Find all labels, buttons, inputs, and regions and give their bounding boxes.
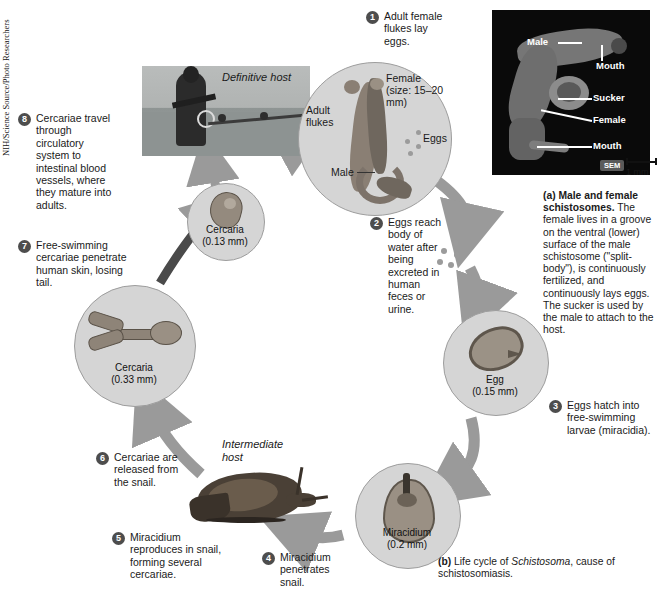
inset-label-mouth-bottom: Mouth: [593, 140, 622, 151]
caption-b-text1: Life cycle of: [454, 556, 508, 567]
step-6: 6 Cercariae are released from the snail.: [96, 451, 188, 488]
inset-label-sucker: Sucker: [593, 92, 625, 103]
intermediate-host-label: Intermediate host: [222, 438, 302, 463]
eggs-cluster-inside-circle: [404, 130, 426, 158]
step-4-text: Miracidium penetrates snail.: [280, 551, 354, 588]
miracidium-size: (0.2 mm): [387, 539, 427, 550]
inset-label-female: Female: [593, 114, 626, 125]
step-5: 5 Miracidium reproduces in snail, formin…: [112, 531, 236, 581]
step-6-number: 6: [96, 452, 109, 465]
cercaria-large-illustration: [88, 315, 184, 357]
snail-photo: [190, 465, 320, 531]
caption-b-species: Schistosoma: [511, 556, 570, 567]
cercaria-small-label: Cercaria (0.13 mm): [187, 224, 263, 247]
photo-credit: NIH/Science Source/Photo Researchers: [1, 4, 15, 172]
scale-bar-right-tick: [655, 158, 657, 165]
step-7-number: 7: [18, 240, 31, 253]
step-4-number: 4: [262, 552, 275, 565]
step-2: 2 Eggs reach body of water after being e…: [370, 216, 446, 315]
miracidium-name: Miracidium: [383, 527, 431, 538]
caption-b: (b) Life cycle of Schistosoma, cause of …: [438, 556, 664, 580]
step-1: 1 Adult female flukes lay eggs.: [366, 10, 448, 47]
step-3-text: Eggs hatch into free-swimming larvae (mi…: [567, 399, 651, 436]
scale-bar-left-tick: [626, 158, 628, 165]
male-leader-line: [357, 172, 375, 173]
step-3: 3 Eggs hatch into free-swimming larvae (…: [549, 399, 651, 436]
scale-bar: [626, 161, 656, 163]
eggs-label: Eggs: [423, 132, 447, 144]
definitive-host-label: Definitive host: [222, 71, 291, 83]
cercaria-large-size: (0.33 mm): [111, 374, 157, 385]
step-2-text: Eggs reach body of water after being exc…: [388, 216, 446, 315]
cercaria-small-name: Cercaria: [206, 224, 244, 235]
cercaria-large-name: Cercaria: [115, 362, 153, 373]
step-6-text: Cercariae are released from the snail.: [114, 451, 188, 488]
male-label: Male: [331, 166, 354, 178]
leader-line-male: [558, 42, 582, 44]
step-5-text: Miracidium reproduces in snail, forming …: [130, 531, 236, 581]
leader-line-mouth-bottom: [537, 146, 592, 148]
step-7: 7 Free-swimming cercariae penetrate huma…: [18, 239, 134, 289]
step-3-number: 3: [549, 400, 562, 413]
step-8-number: 8: [18, 113, 31, 126]
step-4: 4 Miracidium penetrates snail.: [262, 551, 354, 588]
miracidium-label: Miracidium (0.2 mm): [355, 527, 459, 550]
adult-flukes-label: Adult flukes: [306, 104, 348, 128]
egg-name: Egg: [486, 374, 504, 385]
egg-label: Egg (0.15 mm): [443, 374, 547, 397]
scale-value-label: 1 mm: [626, 167, 649, 177]
cercaria-small-size: (0.13 mm): [202, 236, 248, 247]
leader-line-mouth-top: [601, 45, 603, 61]
egg-illustration: [468, 324, 524, 370]
caption-a-body: The female lives in a groove on the vent…: [543, 202, 653, 335]
egg-size: (0.15 mm): [472, 386, 518, 397]
cercaria-small-illustration: [208, 192, 244, 228]
step-8-text: Cercariae travel through circulatory sys…: [36, 112, 118, 211]
step-1-number: 1: [366, 11, 379, 24]
female-size-label: Female (size: 15–20 mm): [386, 72, 444, 108]
step-2-number: 2: [370, 217, 383, 230]
step-7-text: Free-swimming cercariae penetrate human …: [36, 239, 134, 289]
inset-label-male: Male: [527, 36, 548, 47]
inset-label-mouth-top: Mouth: [596, 60, 625, 71]
leader-line-sucker: [558, 98, 592, 100]
sem-tag: SEM: [600, 160, 624, 171]
step-5-number: 5: [112, 532, 125, 545]
step-8: 8 Cercariae travel through circulatory s…: [18, 112, 118, 211]
caption-a: (a) Male and female schistosomes. The fe…: [543, 190, 659, 336]
cercaria-large-label: Cercaria (0.33 mm): [74, 362, 194, 385]
step-1-text: Adult female flukes lay eggs.: [384, 10, 448, 47]
